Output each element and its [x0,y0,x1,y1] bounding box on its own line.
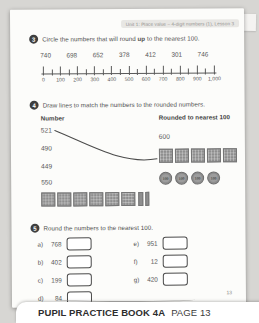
q3-circle-number[interactable]: 740 [40,52,51,59]
question3-badge: 3 [29,35,38,44]
number-line-tick-label: 700 [159,76,168,82]
q3-circle-number[interactable]: 301 [171,51,182,58]
number-line-tick [60,66,61,75]
hundred-counter: 100 [191,171,204,184]
q5-item-row: b)402 [38,255,92,267]
q5-item-value: 420 [143,275,158,282]
hundred-square-block [89,192,103,206]
q5-left-column: a)768b)402c)199d)84 [38,237,92,303]
q4-rounded-600[interactable]: 600 [159,133,170,140]
hundred-square-block [223,148,237,162]
number-line-tick [180,66,181,75]
ten-rod-block [145,192,150,206]
unit-lesson-tag: Unit 1: Place value – 4-digit numbers (1… [121,19,239,28]
answer-box[interactable] [163,272,188,285]
question3-prompt: Circle the numbers that will round up to… [42,34,199,42]
q4-right-column-header: Rounded to nearest 100 [159,113,230,120]
number-line-tick [171,69,172,75]
hundred-square-block [41,193,55,207]
hundred-square-block [121,192,135,206]
question5-badge: 5 [30,224,39,233]
workbook-page: Unit 1: Place value – 4-digit numbers (1… [10,8,246,308]
number-line-tick-label: 100 [56,76,65,82]
number-line-tick-label: 0 [42,77,45,83]
hundred-counter: 100 [207,171,220,184]
question3-numbers: 740698652378412301746 [40,50,208,58]
number-line-tick [86,69,87,75]
q3-circle-number[interactable]: 746 [198,50,209,57]
hundred-square-block [191,148,205,162]
q4-number-490[interactable]: 490 [41,145,52,152]
answer-box[interactable] [67,273,92,286]
page-number: 13 [226,289,232,295]
number-line-tick-label: 1,000 [208,75,221,81]
q4-left-column-header: Number [41,114,65,121]
q5-right-column: e)951f)12g)420 [134,237,188,285]
q5-item-label: e) [134,239,143,246]
number-line-tick [205,68,206,74]
q5-item-row: c)199 [38,273,92,285]
answer-box[interactable] [67,255,92,268]
number-line-tick [120,69,121,75]
number-line-tick-label: 900 [193,75,202,81]
number-line-tick [128,66,129,75]
q5-item-value: 768 [47,240,62,247]
hundred-square-block [159,149,173,163]
hundred-counter: 100 [159,172,172,185]
footer-bar: PUPIL PRACTICE BOOK 4A PAGE 13 [16,302,259,323]
answer-box[interactable] [163,236,188,249]
q3-circle-number[interactable]: 378 [119,51,130,58]
q5-item-value: 402 [47,258,62,265]
q3-circle-number[interactable]: 698 [66,51,77,58]
q4-number-449[interactable]: 449 [41,163,52,170]
hundred-counter: 100 [175,172,188,185]
q5-item-value: 199 [47,276,62,283]
question5-prompt: Round the numbers to the nearest 100. [43,224,153,232]
number-line-tick [43,67,44,76]
q5-item-label: d) [38,294,47,301]
q5-item-value: 951 [143,239,158,246]
hundred-square-block [73,192,87,206]
q4-left-base-ten-blocks[interactable] [41,192,149,207]
q4-number-521[interactable]: 521 [41,127,52,134]
number-line-tick [163,66,164,75]
screenshot-root: Unit 1: Place value – 4-digit numbers (1… [0,0,259,323]
number-line-tick-label: 800 [176,76,185,82]
ten-rod-block [138,192,143,206]
number-line-tick [197,66,198,75]
question4-prompt: Draw lines to match the numbers to the r… [43,100,205,108]
number-line-tick [145,66,146,75]
q3-circle-number[interactable]: 652 [93,51,104,58]
number-line: 01002003004005006007008009001,000 [43,64,214,85]
number-line-tick-label: 400 [107,76,116,82]
number-line-tick [111,66,112,75]
number-line-tick-label: 500 [125,76,134,82]
q5-item-label: g) [134,275,143,282]
number-line-tick [94,66,95,75]
q4-number-550[interactable]: 550 [41,179,52,186]
q5-item-row: g)420 [134,273,188,285]
q5-item-label: c) [38,276,47,283]
number-line-tick [188,69,189,75]
number-line-tick [154,69,155,75]
q4-right-base-ten-blocks[interactable] [159,148,237,163]
q3-circle-number[interactable]: 412 [145,51,156,58]
number-line-tick [69,69,70,75]
answer-box[interactable] [67,237,92,250]
hundred-square-block [105,192,119,206]
hundred-square-block [57,192,71,206]
answer-box[interactable] [163,254,188,267]
number-line-tick [103,69,104,75]
footer-book-title: PUPIL PRACTICE BOOK 4A [38,307,165,318]
number-line-tick [214,65,215,74]
number-line-tick [77,66,78,75]
number-line-tick [137,69,138,75]
hundred-square-block [175,149,189,163]
hundred-square-block [207,148,221,162]
q4-place-value-counters[interactable]: 100100100100 [159,171,220,184]
number-line-tick [51,70,52,76]
number-line-tick-label: 600 [142,76,151,82]
q5-item-row: f)12 [134,255,188,267]
q5-item-label: f) [134,257,143,264]
q5-item-value: 12 [143,257,158,264]
